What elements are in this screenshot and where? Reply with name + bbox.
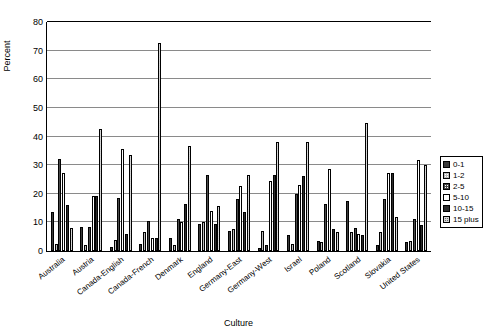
bar-group bbox=[372, 22, 402, 251]
bar bbox=[121, 149, 124, 251]
bar bbox=[302, 176, 305, 251]
y-axis-tick-label: 60 bbox=[33, 75, 43, 84]
bar bbox=[357, 234, 360, 251]
y-axis-tick-label: 10 bbox=[33, 218, 43, 227]
bar-group bbox=[342, 22, 372, 251]
bar bbox=[424, 165, 427, 251]
bar bbox=[55, 244, 58, 251]
bar bbox=[273, 175, 276, 251]
bar bbox=[180, 222, 183, 251]
bar bbox=[84, 245, 87, 251]
bar-group bbox=[401, 22, 431, 251]
bar bbox=[169, 238, 172, 251]
bar bbox=[376, 245, 379, 251]
bar bbox=[173, 245, 176, 251]
y-axis-tick-label: 50 bbox=[33, 104, 43, 113]
bar bbox=[258, 248, 261, 251]
legend-item: 1-2 bbox=[443, 170, 479, 181]
bar-group bbox=[224, 22, 254, 251]
legend-item: 10-15 bbox=[443, 203, 479, 214]
bar bbox=[184, 204, 187, 251]
bar bbox=[129, 155, 132, 251]
y-axis-tick-label: 80 bbox=[33, 18, 43, 27]
bar bbox=[320, 242, 323, 251]
bar bbox=[354, 228, 357, 251]
bar bbox=[395, 217, 398, 252]
bar bbox=[117, 198, 120, 251]
x-axis-title: Culture bbox=[46, 318, 431, 328]
bar bbox=[365, 123, 368, 251]
bar bbox=[139, 244, 142, 251]
bar bbox=[379, 232, 382, 251]
bar bbox=[332, 229, 335, 251]
bar bbox=[247, 175, 250, 251]
y-axis-tick-label: 30 bbox=[33, 161, 43, 170]
bar bbox=[361, 235, 364, 251]
bar bbox=[317, 241, 320, 251]
bar bbox=[66, 205, 69, 251]
y-axis-title: Percent bbox=[2, 16, 12, 96]
bar-group bbox=[106, 22, 136, 251]
bar bbox=[306, 142, 309, 251]
bar bbox=[409, 241, 412, 251]
bar bbox=[287, 235, 290, 251]
y-axis-tick-label: 20 bbox=[33, 190, 43, 199]
legend-swatch-icon bbox=[443, 216, 450, 223]
bar bbox=[188, 146, 191, 251]
bar bbox=[239, 186, 242, 251]
bar bbox=[210, 211, 213, 251]
legend-swatch-icon bbox=[443, 183, 450, 190]
bar bbox=[276, 142, 279, 251]
bar bbox=[228, 231, 231, 251]
bar bbox=[236, 199, 239, 251]
bar bbox=[62, 173, 65, 251]
bar-group bbox=[47, 22, 77, 251]
x-axis-tick: Denmark bbox=[164, 254, 194, 306]
bar bbox=[298, 185, 301, 251]
bar-group bbox=[195, 22, 225, 251]
bar bbox=[143, 232, 146, 251]
bar bbox=[383, 199, 386, 251]
bar bbox=[217, 206, 220, 251]
bar bbox=[265, 245, 268, 251]
bar bbox=[232, 229, 235, 251]
x-axis-tick: Australia bbox=[46, 254, 76, 306]
legend-label: 5-10 bbox=[453, 194, 469, 202]
legend-label: 10-15 bbox=[453, 205, 473, 213]
bar bbox=[88, 227, 91, 251]
legend-label: 0-1 bbox=[453, 161, 465, 169]
x-axis-tick: Germany-West bbox=[253, 254, 283, 306]
x-axis-tick-labels: AustraliaAustriaCanada-EnglishCanada-Fre… bbox=[46, 254, 431, 306]
y-axis-tick-label: 40 bbox=[33, 133, 43, 142]
legend-label: 1-2 bbox=[453, 172, 465, 180]
legend-label: 2-5 bbox=[453, 183, 465, 191]
bar bbox=[70, 228, 73, 251]
x-axis-tick: United States bbox=[401, 254, 431, 306]
legend-item: 15 plus bbox=[443, 214, 479, 225]
bar bbox=[324, 204, 327, 251]
bar bbox=[202, 222, 205, 251]
legend-item: 0-1 bbox=[443, 159, 479, 170]
legend-swatch-icon bbox=[443, 161, 450, 168]
bar bbox=[99, 129, 102, 251]
bar bbox=[214, 224, 217, 251]
bar bbox=[269, 181, 272, 251]
x-axis-tick-label: Australia bbox=[36, 255, 66, 281]
bar bbox=[177, 219, 180, 251]
legend-item: 2-5 bbox=[443, 181, 479, 192]
bar bbox=[51, 212, 54, 251]
legend: 0-11-22-55-1010-1515 plus bbox=[440, 156, 483, 228]
bar bbox=[387, 173, 390, 251]
bar-groups bbox=[47, 22, 431, 251]
bar bbox=[336, 232, 339, 251]
bar bbox=[243, 212, 246, 251]
bar bbox=[151, 238, 154, 251]
bar bbox=[391, 173, 394, 251]
bar-chart: Percent 01020304050607080 AustraliaAustr… bbox=[0, 0, 501, 336]
bar bbox=[291, 244, 294, 251]
bar bbox=[158, 43, 161, 251]
x-axis-tick: Israel bbox=[283, 254, 313, 306]
bar bbox=[206, 175, 209, 251]
plot-area: 01020304050607080 bbox=[46, 22, 431, 252]
bar bbox=[413, 219, 416, 251]
